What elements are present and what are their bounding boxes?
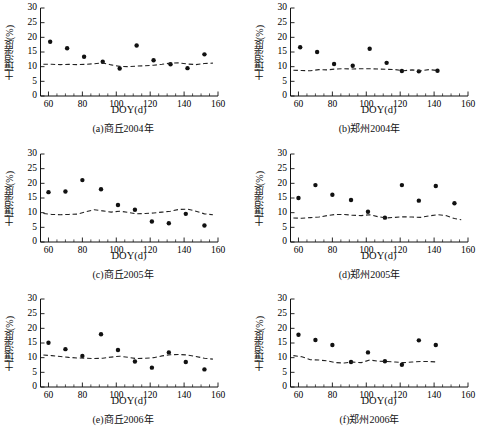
data-point [151, 58, 155, 62]
axis-lines [291, 154, 469, 242]
y-tick-label: 15 [28, 192, 38, 202]
y-tick-label: 20 [28, 323, 38, 333]
data-point [167, 221, 171, 225]
data-point [315, 50, 319, 54]
panel-caption-b: (b)郑州2004年 [246, 120, 493, 135]
data-point [185, 66, 189, 70]
y-tick-label: 10 [28, 352, 38, 362]
data-point [202, 52, 206, 56]
y-tick-label: 10 [28, 207, 38, 217]
chart-panel-b: 土壤湿度(%)0510152025306080100120140160DOY(d… [246, 0, 493, 146]
y-tick-label: 10 [278, 352, 288, 362]
data-point [184, 360, 188, 364]
plot-area: 0510152025306080100120140160 [290, 154, 468, 242]
data-point [400, 183, 404, 187]
data-point [63, 347, 67, 351]
y-tick-label: 10 [278, 61, 288, 71]
data-point [80, 178, 84, 182]
x-axis-label: DOY(d) [290, 395, 468, 406]
y-axis-label-text: 土壤湿度(%) [2, 171, 17, 226]
data-point [330, 193, 334, 197]
y-tick-label: 20 [278, 32, 288, 42]
y-tick-label: 0 [32, 381, 37, 391]
y-axis-label-text: 土壤湿度(%) [252, 171, 267, 226]
y-axis-label-text: 土壤湿度(%) [252, 316, 267, 371]
plot-svg-d: 0510152025306080100120140160 [290, 154, 468, 242]
y-axis-label: 土壤湿度(%) [252, 8, 266, 96]
data-point [332, 62, 336, 66]
panel-caption-c: (c)商丘2005年 [0, 266, 246, 281]
y-tick-label: 5 [282, 222, 287, 232]
y-axis-label: 土壤湿度(%) [252, 154, 266, 242]
y-tick-label: 25 [28, 308, 38, 318]
y-tick-label: 30 [28, 148, 38, 158]
chart-panel-f: 土壤湿度(%)0510152025306080100120140160DOY(d… [246, 291, 493, 435]
data-point [313, 338, 317, 342]
data-point [46, 341, 50, 345]
y-tick-label: 25 [28, 163, 38, 173]
y-tick-label: 5 [282, 367, 287, 377]
data-point [298, 45, 302, 49]
trend-line-模拟值 [293, 214, 461, 219]
y-tick-label: 25 [28, 17, 38, 27]
x-axis-label: DOY(d) [40, 104, 218, 115]
y-tick-label: 0 [282, 236, 287, 246]
data-point [349, 198, 353, 202]
panel-caption-a: (a)商丘2004年 [0, 120, 246, 135]
y-tick-label: 25 [278, 163, 288, 173]
data-point [48, 40, 52, 44]
plot-svg-b: 0510152025306080100120140160 [290, 8, 468, 96]
chart-panel-e: 土壤湿度(%)0510152025306080100120140160DOY(d… [0, 291, 246, 435]
data-point [63, 189, 67, 193]
y-tick-label: 0 [32, 236, 37, 246]
trend-line-模拟值 [43, 354, 213, 359]
y-tick-label: 30 [28, 2, 38, 12]
y-tick-label: 30 [278, 148, 288, 158]
y-tick-label: 5 [32, 76, 37, 86]
data-point [434, 184, 438, 188]
y-axis-label: 土壤湿度(%) [2, 154, 16, 242]
x-axis-label: DOY(d) [290, 104, 468, 115]
x-axis-label: DOY(d) [290, 250, 468, 261]
y-tick-label: 30 [278, 2, 288, 12]
y-tick-label: 30 [278, 293, 288, 303]
axis-lines [41, 8, 219, 96]
y-axis-label-text: 土壤湿度(%) [2, 25, 17, 80]
data-point [351, 64, 355, 68]
y-tick-label: 15 [278, 192, 288, 202]
data-point [384, 61, 388, 65]
y-tick-label: 15 [278, 337, 288, 347]
trend-line-模拟值 [293, 69, 437, 71]
y-axis-label-text: 土壤湿度(%) [2, 316, 17, 371]
data-point [313, 183, 317, 187]
panel-caption-e: (e)商丘2006年 [0, 411, 246, 426]
y-axis-label: 土壤湿度(%) [2, 299, 16, 387]
data-point [434, 343, 438, 347]
plot-svg-c: 0510152025306080100120140160 [40, 154, 218, 242]
data-point [65, 46, 69, 50]
data-point [167, 350, 171, 354]
y-tick-label: 0 [282, 90, 287, 100]
data-point [202, 223, 206, 227]
y-axis-label: 土壤湿度(%) [2, 8, 16, 96]
y-tick-label: 20 [278, 178, 288, 188]
y-tick-label: 10 [278, 207, 288, 217]
panel-caption-f: (f)郑州2006年 [246, 411, 493, 426]
y-tick-label: 25 [278, 17, 288, 27]
y-tick-label: 30 [28, 293, 38, 303]
data-point [367, 47, 371, 51]
y-tick-label: 5 [282, 76, 287, 86]
y-tick-label: 5 [32, 367, 37, 377]
data-point [80, 354, 84, 358]
chart-panel-d: 土壤湿度(%)0510152025306080100120140160DOY(d… [246, 146, 493, 291]
axis-lines [41, 299, 219, 387]
figure-panel-grid: 土壤湿度(%)0510152025306080100120140160DOY(d… [0, 0, 493, 435]
y-tick-label: 10 [28, 61, 38, 71]
plot-svg-f: 0510152025306080100120140160 [290, 299, 468, 387]
data-point [417, 338, 421, 342]
data-point [417, 69, 421, 73]
axis-lines [291, 299, 469, 387]
data-point [133, 359, 137, 363]
plot-area: 0510152025306080100120140160 [290, 8, 468, 96]
y-tick-label: 0 [282, 381, 287, 391]
